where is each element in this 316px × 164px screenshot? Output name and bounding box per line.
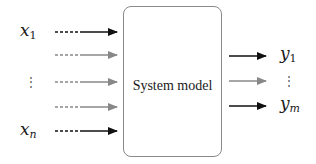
input-label-x1-sub: 1 xyxy=(30,29,37,42)
output-label-ym-sub: m xyxy=(290,102,300,115)
system-model-box: System model xyxy=(123,6,222,157)
input-label-xn-base: x xyxy=(20,119,30,139)
system-model-label: System model xyxy=(124,79,221,93)
input-ellipsis: ⋮ xyxy=(25,76,37,88)
input-label-xn: xn xyxy=(20,121,37,140)
input-label-xn-sub: n xyxy=(30,128,37,141)
output-label-ym: ym xyxy=(280,95,300,114)
system-diagram: System model x1 ⋮ xn y1 ⋮ ym xyxy=(0,0,316,164)
output-label-ym-base: y xyxy=(280,93,290,113)
input-label-x1-base: x xyxy=(20,20,30,40)
output-label-y1-sub: 1 xyxy=(290,52,297,65)
output-ellipsis: ⋮ xyxy=(283,75,295,87)
output-label-y1-base: y xyxy=(280,43,290,63)
input-label-x1: x1 xyxy=(20,22,37,41)
output-label-y1: y1 xyxy=(280,45,297,64)
